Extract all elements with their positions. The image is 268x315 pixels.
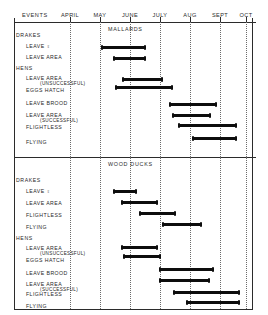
row-label-text: FLIGHTLESS — [26, 212, 62, 218]
gridline-june-seg-a — [130, 22, 131, 157]
row-label-text: FLIGHTLESS — [26, 291, 62, 297]
row-label-text: HENS — [16, 65, 33, 71]
row-label-text: EGGS HATCH — [26, 87, 64, 93]
row-label-text: FLIGHTLESS — [26, 124, 62, 130]
chronology-chart: EVENTS APRILMAYJUNEJULYAUGSEPTOCT MALLAR… — [0, 0, 268, 315]
gridline-oct-seg-a — [246, 22, 247, 157]
row-label-wd-drakes-header: DRAKES — [16, 177, 41, 183]
event-bar-hens-leave-brood — [169, 103, 217, 106]
event-bar-hens-leave-area-uns — [122, 78, 163, 81]
event-bar-wd-drakes-flying — [162, 223, 202, 226]
event-bar-drakes-leave-area — [113, 57, 146, 60]
month-label-oct: OCT — [239, 12, 252, 18]
gridline-aug-seg-a — [190, 22, 191, 157]
month-label-july: JULY — [153, 12, 168, 18]
row-label-text: LEAVE AREA — [26, 112, 62, 118]
event-bar-hens-flying — [192, 137, 237, 140]
row-label-text: LEAVE ♀ — [26, 188, 51, 194]
row-label-wd-hens-header: HENS — [16, 235, 33, 241]
row-label-wd-hens-leave-brood: LEAVE BROOD — [26, 270, 68, 276]
event-bar-hens-flightless — [178, 124, 237, 127]
plot-frame-right — [252, 18, 253, 310]
row-label-hens-leave-area-uns: LEAVE AREA(UNSUCCESSFUL) — [26, 75, 85, 88]
row-label-text: LEAVE AREA — [26, 75, 62, 81]
row-label-wd-drakes-leave-female: LEAVE ♀ — [26, 188, 51, 194]
row-label-drakes-leave-area: LEAVE AREA — [26, 54, 62, 60]
gridline-sept-seg-b — [220, 157, 221, 309]
row-label-hens-leave-area-suc: LEAVE AREA(SUCCESSFUL) — [26, 112, 78, 125]
month-label-june: JUNE — [122, 12, 138, 18]
event-bar-wd-hens-flightless — [173, 291, 240, 294]
event-bar-wd-hens-leave-brood — [159, 268, 214, 271]
row-label-text: FLYING — [26, 139, 47, 145]
gridline-oct-seg-b — [246, 157, 247, 309]
row-label-text: LEAVE ♀ — [26, 43, 51, 49]
gridline-may-seg-b — [100, 157, 101, 309]
plot-frame-left — [14, 18, 15, 310]
row-label-hens-eggs-hatch: EGGS HATCH — [26, 87, 64, 93]
panel-title-mallards: MALLARDS — [108, 26, 143, 32]
row-label-wd-drakes-leave-area: LEAVE AREA — [26, 200, 62, 206]
row-label-text: LEAVE AREA — [26, 54, 62, 60]
row-label-drakes-header: DRAKES — [16, 32, 41, 38]
row-label-text: LEAVE BROOD — [26, 270, 68, 276]
gridline-july-seg-b — [160, 157, 161, 309]
panel-title-woodducks: WOOD DUCKS — [108, 161, 153, 167]
event-bar-wd-hens-eggs-hatch — [123, 255, 161, 258]
row-label-wd-drakes-flying: FLYING — [26, 224, 47, 230]
row-label-hens-flying: FLYING — [26, 139, 47, 145]
row-label-text: FLYING — [26, 224, 47, 230]
event-bar-wd-hens-leave-area-uns — [121, 246, 158, 249]
row-label-hens-flightless: FLIGHTLESS — [26, 124, 62, 130]
month-label-april: APRIL — [61, 12, 79, 18]
row-label-wd-hens-eggs-hatch: EGGS HATCH — [26, 257, 64, 263]
row-label-text: DRAKES — [16, 177, 41, 183]
event-bar-hens-leave-area-suc — [172, 114, 211, 117]
row-label-text: LEAVE AREA — [26, 245, 62, 251]
event-bar-wd-drakes-leave-area — [121, 201, 158, 204]
row-label-hens-leave-brood: LEAVE BROOD — [26, 100, 68, 106]
row-label-wd-hens-leave-area-uns: LEAVE AREA(UNSUCCESSFUL) — [26, 245, 85, 258]
gridline-may-seg-a — [100, 22, 101, 157]
row-label-wd-hens-flying: FLYING — [26, 303, 47, 309]
row-label-hens-header: HENS — [16, 65, 33, 71]
row-label-wd-drakes-flightless: FLIGHTLESS — [26, 212, 62, 218]
row-label-text: FLYING — [26, 303, 47, 309]
row-label-text: DRAKES — [16, 32, 41, 38]
gridline-july-seg-a — [160, 22, 161, 157]
event-bar-wd-drakes-flightless — [139, 212, 176, 215]
gridline-june-seg-b — [130, 157, 131, 309]
row-label-wd-hens-flightless: FLIGHTLESS — [26, 291, 62, 297]
event-bar-wd-drakes-leave-female — [113, 190, 137, 193]
row-label-text: LEAVE BROOD — [26, 100, 68, 106]
month-label-aug: AUG — [183, 12, 196, 18]
event-bar-drakes-leave-female — [101, 46, 146, 49]
plot-frame-bottom — [14, 309, 253, 310]
month-label-sept: SEPT — [212, 12, 228, 18]
event-bar-hens-eggs-hatch — [115, 86, 173, 89]
gridline-aug-seg-b — [190, 157, 191, 309]
events-column-header: EVENTS — [22, 12, 48, 18]
gridline-april-seg-a — [70, 22, 71, 157]
row-label-text: HENS — [16, 235, 33, 241]
event-bar-wd-hens-flying — [186, 301, 240, 304]
row-label-drakes-leave-female: LEAVE ♀ — [26, 43, 51, 49]
event-bar-wd-hens-leave-area-suc — [159, 279, 210, 282]
month-label-may: MAY — [94, 12, 107, 18]
row-label-text: EGGS HATCH — [26, 257, 64, 263]
row-label-text: LEAVE AREA — [26, 200, 62, 206]
row-label-text: LEAVE AREA — [26, 281, 62, 287]
